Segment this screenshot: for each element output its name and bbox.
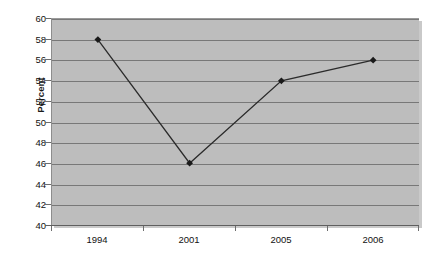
x-tick-label: 2001: [178, 234, 199, 245]
x-tick-label: 2006: [362, 234, 383, 245]
x-tick-label: 1994: [86, 234, 107, 245]
x-tick-label: 2005: [270, 234, 291, 245]
y-tick-label: 60: [24, 13, 46, 24]
plot-shadow-right: [419, 21, 422, 228]
y-tick-label: 52: [24, 95, 46, 106]
y-tick-label: 50: [24, 116, 46, 127]
x-axis-tick-marks: [51, 226, 419, 232]
data-point-marker: [370, 57, 377, 64]
data-series-line: [52, 19, 419, 225]
x-tick-mark: [418, 226, 419, 231]
x-tick-mark: [51, 226, 52, 231]
y-tick-label: 42: [24, 199, 46, 210]
y-axis-tick-labels: 4042444648505254565860: [24, 18, 46, 225]
y-tick-label: 58: [24, 33, 46, 44]
y-tick-label: 56: [24, 54, 46, 65]
y-tick-label: 40: [24, 220, 46, 231]
y-tick-label: 54: [24, 75, 46, 86]
y-tick-label: 44: [24, 178, 46, 189]
x-axis-tick-labels: 1994200120052006: [51, 234, 419, 250]
series-polyline: [98, 40, 373, 164]
y-tick-label: 46: [24, 157, 46, 168]
y-tick-label: 48: [24, 137, 46, 148]
plot-area: [51, 18, 419, 225]
x-tick-mark: [143, 226, 144, 231]
x-tick-mark: [327, 226, 328, 231]
line-chart-figure: Percent 4042444648505254565860 199420012…: [0, 0, 440, 264]
x-tick-mark: [235, 226, 236, 231]
series-markers: [94, 36, 376, 166]
